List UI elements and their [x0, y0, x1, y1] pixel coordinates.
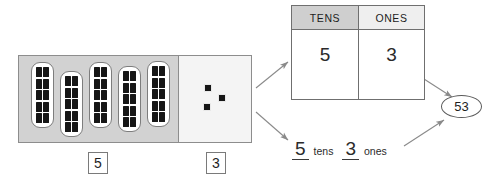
- block-pip: [72, 99, 78, 109]
- block-pip: [152, 101, 158, 111]
- ones-blocks-region: [179, 56, 251, 142]
- block-pip: [43, 102, 49, 112]
- block-pip: [123, 71, 129, 81]
- block-pip: [94, 90, 100, 100]
- tens-blocks-region: [19, 56, 179, 142]
- block-pip: [36, 67, 42, 77]
- block-pip: [65, 76, 71, 86]
- block-pip: [72, 122, 78, 132]
- word-form-tens-label: tens: [314, 145, 334, 157]
- unit-cube: [218, 94, 226, 102]
- block-pip: [43, 79, 49, 89]
- table-header-ones: ONES: [359, 6, 424, 29]
- block-pip: [123, 117, 129, 127]
- place-value-diagram: 5 3 TENS ONES 5 3 5 tens 3 ones 53: [0, 0, 492, 187]
- block-pip: [65, 88, 71, 98]
- block-pip: [152, 78, 158, 88]
- arrow-blocks-to-table: [256, 62, 288, 88]
- arrow-word-form-to-result: [404, 120, 444, 146]
- tens-count-box: 5: [88, 152, 108, 174]
- block-pip: [72, 76, 78, 86]
- block-pip: [159, 78, 165, 88]
- block-pip: [152, 66, 158, 76]
- expanded-word-form: 5 tens 3 ones: [292, 139, 396, 160]
- block-pip: [101, 113, 107, 123]
- word-form-tens-value: 5: [292, 139, 309, 160]
- block-pip: [123, 106, 129, 116]
- table-value-tens: 5: [292, 30, 359, 99]
- table-value-ones: 3: [359, 30, 424, 99]
- block-pip: [130, 117, 136, 127]
- ten-rod: [31, 62, 54, 128]
- block-pip: [36, 113, 42, 123]
- block-pip: [123, 83, 129, 93]
- block-pip: [152, 89, 158, 99]
- block-pip: [130, 94, 136, 104]
- block-pip: [130, 71, 136, 81]
- block-pip: [43, 67, 49, 77]
- block-pip: [101, 67, 107, 77]
- unit-cube: [203, 103, 211, 111]
- block-pip: [159, 112, 165, 122]
- arrow-blocks-to-word-form: [256, 112, 288, 140]
- block-pip: [36, 102, 42, 112]
- ten-rod: [118, 66, 141, 132]
- block-pip: [72, 88, 78, 98]
- block-pip: [159, 66, 165, 76]
- block-pip: [65, 99, 71, 109]
- table-header-row: TENS ONES: [292, 6, 424, 30]
- block-pip: [36, 90, 42, 100]
- block-pip: [43, 90, 49, 100]
- block-pip: [130, 83, 136, 93]
- ten-rod: [147, 61, 170, 127]
- unit-cube: [204, 84, 212, 92]
- ten-rod: [60, 71, 83, 137]
- arrow-table-to-result: [424, 79, 452, 97]
- table-value-row: 5 3: [292, 30, 424, 99]
- ten-rod: [89, 62, 112, 128]
- block-pip: [43, 113, 49, 123]
- block-pip: [94, 102, 100, 112]
- block-pip: [159, 101, 165, 111]
- block-pip: [101, 90, 107, 100]
- result-number-oval: 53: [441, 95, 482, 118]
- block-pip: [152, 112, 158, 122]
- block-pip: [72, 111, 78, 121]
- block-pip: [101, 102, 107, 112]
- block-pip: [101, 79, 107, 89]
- word-form-ones-value: 3: [342, 139, 359, 160]
- block-pip: [159, 89, 165, 99]
- base-ten-blocks-panel: [18, 55, 252, 143]
- ones-count-box: 3: [206, 152, 226, 174]
- block-pip: [123, 94, 129, 104]
- block-pip: [65, 111, 71, 121]
- block-pip: [65, 122, 71, 132]
- block-pip: [94, 67, 100, 77]
- table-header-tens: TENS: [292, 6, 359, 29]
- block-pip: [36, 79, 42, 89]
- word-form-ones-label: ones: [364, 145, 387, 157]
- block-pip: [94, 113, 100, 123]
- block-pip: [130, 106, 136, 116]
- place-value-table: TENS ONES 5 3: [291, 5, 425, 100]
- block-pip: [94, 79, 100, 89]
